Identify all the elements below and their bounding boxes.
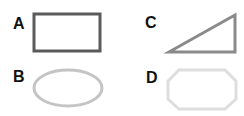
- ellipse-shape: [34, 70, 102, 106]
- shapes-canvas: [0, 0, 244, 116]
- triangle-shape: [169, 15, 235, 52]
- octagon-shape: [168, 70, 236, 109]
- rectangle-shape: [34, 14, 100, 51]
